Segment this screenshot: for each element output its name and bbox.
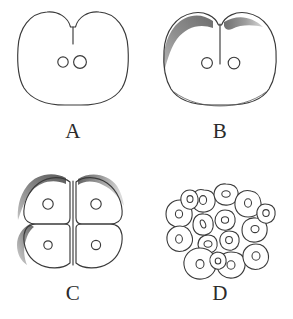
panel-b: B	[147, 0, 293, 159]
panel-d: D	[147, 160, 293, 319]
nucleus	[222, 191, 230, 198]
panel-c: C	[0, 160, 146, 319]
nucleus	[58, 57, 68, 67]
panel-d-illustration	[147, 160, 293, 286]
nucleus	[175, 210, 182, 218]
nucleus	[176, 235, 183, 243]
nucleus	[44, 241, 52, 249]
nucleus	[226, 236, 233, 243]
nucleus	[187, 196, 193, 203]
nucleus	[196, 260, 204, 269]
panel-a: A	[0, 0, 146, 159]
nucleus	[227, 261, 235, 269]
embryo-outline-a	[18, 12, 129, 105]
nucleus	[199, 196, 206, 205]
nucleus	[252, 252, 260, 260]
panel-d-label: D	[147, 280, 293, 306]
embryo-lower-edge-b	[174, 92, 266, 106]
nucleus	[202, 58, 213, 69]
nucleus	[43, 199, 53, 209]
cleavage-stages-figure: A	[0, 0, 293, 319]
panel-a-illustration	[0, 0, 146, 126]
nucleus	[221, 217, 228, 223]
nucleus	[91, 240, 100, 249]
panel-c-illustration	[0, 160, 146, 286]
panel-a-label: A	[0, 118, 146, 144]
nucleus	[215, 258, 221, 264]
nucleus	[204, 241, 212, 247]
nucleus	[228, 57, 240, 69]
nucleus	[91, 199, 101, 209]
panel-c-label: C	[0, 280, 146, 306]
nucleus	[245, 199, 252, 207]
nucleus	[251, 225, 259, 232]
nucleus	[263, 210, 269, 217]
shaded-rim-right-b	[224, 17, 263, 30]
panel-b-illustration	[147, 0, 293, 126]
nucleus	[74, 56, 87, 69]
panel-b-label: B	[147, 118, 293, 144]
